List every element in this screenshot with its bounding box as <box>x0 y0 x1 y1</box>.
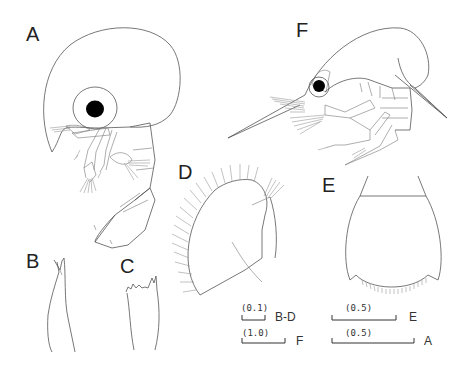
scale-bar-f <box>242 338 285 343</box>
scale-value-a: (0.5) <box>345 328 372 338</box>
scale-tag-e: E <box>409 310 417 324</box>
panel-b-drawing <box>48 258 75 352</box>
panel-d-drawing <box>172 164 284 295</box>
panel-e-drawing <box>346 176 441 294</box>
panel-label-d: D <box>178 162 192 182</box>
panel-a-drawing <box>44 28 181 248</box>
panel-label-c: C <box>120 256 134 276</box>
panel-f-drawing <box>228 28 447 165</box>
scale-tag-a: A <box>424 334 432 348</box>
scale-bar-e <box>332 315 396 320</box>
scale-bar-a <box>332 338 414 343</box>
panel-label-e: E <box>322 175 335 195</box>
scale-value-e: (0.5) <box>345 303 372 313</box>
panel-label-b: B <box>26 251 39 271</box>
panel-label-f: F <box>296 20 308 40</box>
figure-drawings <box>0 0 468 367</box>
scale-tag-f: F <box>296 334 303 348</box>
scale-value-f: (1.0) <box>242 328 269 338</box>
scale-value-b-d: (0.1) <box>241 303 268 313</box>
panel-label-a: A <box>26 24 39 44</box>
scale-bar-b-d <box>242 315 265 320</box>
scale-tag-b-d: B-D <box>275 310 296 324</box>
scientific-figure: A B C D E F (0.1) B-D (1.0) F (0.5) E (0… <box>0 0 468 367</box>
panel-c-drawing <box>126 276 159 350</box>
